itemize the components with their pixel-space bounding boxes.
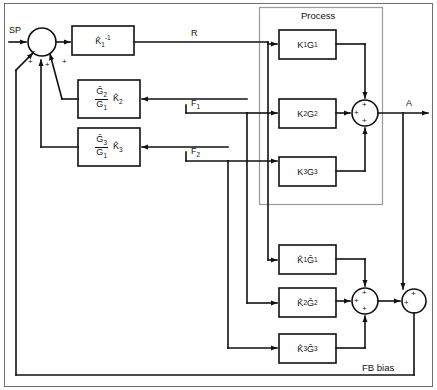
block-label-k2g2: K2G2 [279, 99, 336, 128]
sign-input-sum-plus-2: + [45, 61, 50, 69]
block-label-k1g1: K1G1 [279, 30, 336, 59]
sign-input-sum-plus-1: + [28, 58, 33, 66]
label-a: A [406, 99, 412, 108]
sign-process-sum-bottom: + [362, 117, 367, 125]
block-diagram-canvas: SP R A F1 F2 Process FB bias K̂1-1 Ĝ2Ĝ… [0, 0, 437, 390]
diagram-frame [5, 4, 433, 387]
block-label-k1g1-model: K̂1Ĝ1 [279, 245, 336, 274]
block-label-k1-inverse: K̂1-1 [72, 26, 134, 55]
label-sp: SP [9, 26, 21, 35]
block-label-k2g2-model: K̂2Ĝ2 [279, 288, 336, 317]
label-process-group: Process [301, 11, 335, 21]
block-label-g3g1k3: Ĝ3Ĝ1K̂3 [78, 128, 140, 166]
sign-output-sum-left: + [404, 299, 409, 307]
sign-process-sum-left: + [354, 109, 359, 117]
block-label-k3g3-model: K̂3Ĝ3 [279, 334, 336, 363]
sign-input-sum-minus: − [31, 48, 36, 56]
label-f2: F2 [191, 147, 200, 158]
sign-input-sum-plus-3: + [62, 58, 67, 66]
sign-output-sum-top: + [411, 290, 416, 298]
sign-model-sum-bottom: + [362, 305, 367, 313]
block-label-k3g3: K3G3 [279, 157, 336, 186]
sign-model-sum-left: + [354, 297, 359, 305]
line-ctrl2-to-sum [50, 54, 62, 99]
label-f1: F1 [191, 99, 200, 110]
block-label-g2g1k2: Ĝ2Ĝ1K̂2 [78, 80, 140, 118]
sign-model-sum-top: + [362, 289, 367, 297]
label-fb-bias: FB bias [362, 363, 394, 373]
label-r: R [191, 29, 198, 38]
sign-process-sum-top: + [362, 101, 367, 109]
